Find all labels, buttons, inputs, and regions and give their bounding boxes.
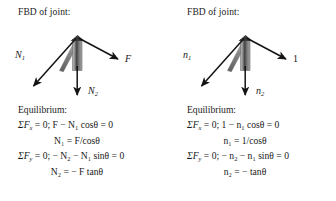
force-arrow-f-left — [79, 38, 119, 59]
equation-n1-solved-left: N₁ = F/cosθ — [0, 134, 168, 147]
equation-n2-solved-left: N₂ = − F tanθ — [0, 165, 168, 178]
equation-sum-fx-right: ΣFx = 0; 1 − n1 cosθ = 0 — [168, 118, 336, 132]
equation-sum-fy-left: ΣFy = 0; − N2 − N₁ sinθ = 0 — [0, 149, 168, 163]
fbd-right-svg — [176, 26, 328, 98]
force-arrow-n1-left — [34, 39, 77, 87]
label-unit-force-right: 1 — [293, 53, 298, 64]
equilibrium-block-left: Equilibrium: ΣFx = 0; F − N1 cosθ = 0 N₁… — [0, 104, 168, 180]
free-body-diagram-right: n1 1 n2 — [176, 26, 328, 98]
equation-sum-fx-left: ΣFx = 0; F − N1 cosθ = 0 — [0, 118, 168, 132]
free-body-diagram-left: N1 F N2 — [8, 26, 160, 98]
equation-n2-solved-right: n₂ = − tanθ — [168, 165, 336, 178]
fbd-panel-left: FBD of joint: — [0, 0, 168, 201]
equation-sum-fy-right: ΣFy = 0; − n2 − n₁ sinθ = 0 — [168, 149, 336, 163]
label-f-left: F — [125, 53, 131, 64]
panel-right-heading: FBD of joint: — [187, 7, 240, 17]
fbd-panel-right: FBD of joint: — [168, 0, 336, 201]
equilibrium-title-left: Equilibrium: — [0, 104, 168, 115]
force-arrow-n1-right — [202, 39, 245, 87]
label-n2-right: n2 — [256, 85, 264, 96]
force-arrow-unit-right — [247, 38, 287, 59]
panel-left-heading: FBD of joint: — [18, 7, 71, 17]
fbd-left-svg — [8, 26, 160, 98]
label-n2-left: N2 — [88, 85, 98, 96]
label-n1-left: N1 — [15, 49, 25, 60]
vertical-member-left — [73, 40, 83, 71]
equilibrium-block-right: Equilibrium: ΣFx = 0; 1 − n1 cosθ = 0 n₁… — [168, 104, 336, 180]
label-n1-right: n1 — [183, 49, 191, 60]
equation-n1-solved-right: n₁ = 1/cosθ — [168, 134, 336, 147]
vertical-member-right — [241, 40, 251, 71]
equilibrium-title-right: Equilibrium: — [168, 104, 336, 115]
figure-canvas: FBD of joint: — [0, 0, 336, 201]
